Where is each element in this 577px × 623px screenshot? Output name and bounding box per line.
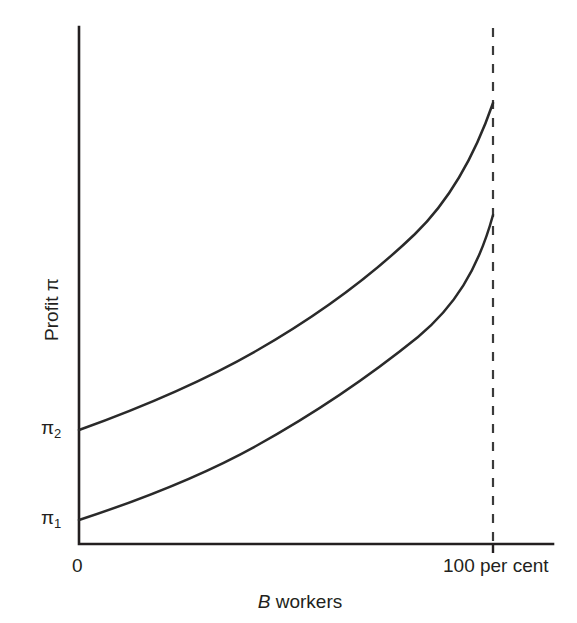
pi1-symbol: π (41, 507, 54, 528)
x-axis-label: B workers (230, 592, 370, 611)
x-tick-label-zero: 0 (72, 556, 83, 575)
pi2-subscript: 2 (54, 426, 61, 441)
chart-canvas (0, 0, 577, 623)
y-tick-label-pi1: π1 (41, 508, 61, 530)
y-axis-label: Profit π (42, 245, 61, 375)
pi2-symbol: π (41, 417, 54, 438)
x-axis-label-text-part: workers (276, 591, 343, 612)
axis-frame (79, 27, 553, 544)
upper-profit-curve (79, 103, 493, 430)
y-tick-label-pi2: π2 (41, 418, 61, 440)
axes-group (79, 27, 553, 553)
pi1-subscript: 1 (54, 516, 61, 531)
x-tick-label-hundred: 100 per cent (443, 556, 549, 575)
lower-profit-curve (79, 215, 493, 520)
profit-curve-figure: Profit π π2 π1 0 100 per cent B workers (0, 0, 577, 623)
x-axis-label-italic-part: B (258, 591, 271, 612)
